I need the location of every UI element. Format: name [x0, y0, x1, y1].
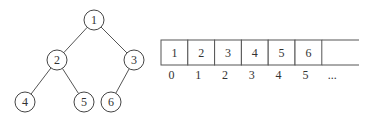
array-cell-0: 1	[161, 40, 188, 65]
node-label: 5	[81, 95, 87, 109]
array-cell-value: 1	[171, 46, 177, 60]
tree-node-3: 3	[124, 50, 144, 70]
node-label: 2	[54, 53, 60, 67]
heap-diagram: 123456 123456 012345...	[0, 0, 368, 123]
tree-node-5: 5	[74, 92, 94, 112]
tree-node-4: 4	[15, 92, 35, 112]
array-cell-1: 2	[188, 40, 215, 65]
tree-edge-3-6	[116, 69, 129, 93]
array-cell-value: 2	[198, 46, 204, 60]
array-indices: 012345...	[168, 68, 336, 82]
tree-edges	[31, 27, 129, 94]
array-index-3: 3	[249, 68, 255, 82]
array-representation: 123456	[161, 40, 359, 65]
array-cell-value: 3	[225, 46, 231, 60]
array-index-0: 0	[168, 68, 174, 82]
tree-node-1: 1	[84, 10, 104, 30]
tree-nodes: 123456	[15, 10, 144, 112]
tree-edge-1-2	[64, 27, 87, 52]
array-cell-value: 6	[305, 46, 311, 60]
node-label: 4	[22, 95, 28, 109]
array-index-4: 4	[276, 68, 282, 82]
array-cell-5: 6	[295, 40, 322, 65]
node-label: 3	[131, 53, 137, 67]
array-index-2: 2	[222, 68, 228, 82]
tree-edge-2-4	[31, 68, 51, 94]
array-index-1: 1	[195, 68, 201, 82]
array-cell-value: 5	[279, 46, 285, 60]
array-cell-4: 5	[268, 40, 295, 65]
node-label: 1	[91, 13, 97, 27]
array-cell-3: 4	[241, 40, 268, 65]
tree-node-6: 6	[101, 92, 121, 112]
array-cell-2: 3	[215, 40, 242, 65]
array-index-5: 5	[302, 68, 308, 82]
node-label: 6	[108, 95, 114, 109]
tree-node-2: 2	[47, 50, 67, 70]
tree-edge-1-3	[101, 27, 127, 53]
array-index-6: ...	[328, 68, 337, 82]
array-cell-value: 4	[252, 46, 258, 60]
tree-edge-2-5	[62, 68, 78, 93]
